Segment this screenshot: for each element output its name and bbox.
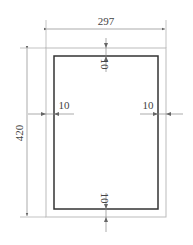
- inner-frame: [54, 56, 158, 209]
- height-dimension: 420: [13, 48, 46, 217]
- top-margin-label: 10: [99, 59, 111, 71]
- left-margin-dimension: 10: [28, 99, 74, 116]
- height-label: 420: [13, 124, 25, 141]
- left-margin-label: 10: [59, 99, 71, 111]
- right-margin-label: 10: [143, 99, 155, 111]
- bottom-margin-dimension: 10: [99, 193, 111, 233]
- width-label: 297: [98, 15, 115, 27]
- bottom-margin-label: 10: [99, 193, 111, 205]
- right-margin-dimension: 10: [140, 99, 183, 116]
- drawing-canvas: 297 420 10 10 10 10: [0, 0, 193, 245]
- top-margin-dimension: 10: [99, 38, 111, 72]
